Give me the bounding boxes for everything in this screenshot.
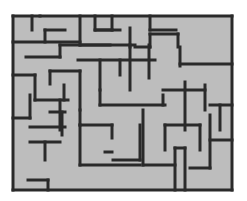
maze-board — [0, 0, 247, 201]
